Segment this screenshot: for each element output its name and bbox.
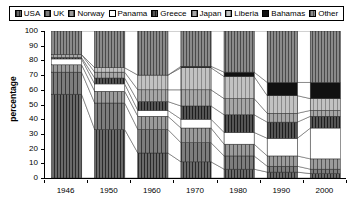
plot-area <box>44 31 346 179</box>
segment-liberia-1990 <box>267 96 297 114</box>
segment-panama-1950 <box>95 84 125 91</box>
x-tick-mark-3 <box>173 180 174 183</box>
segment-usa-1946 <box>52 94 82 178</box>
segment-norway-1946 <box>52 65 82 72</box>
segment-panama-1946 <box>52 59 82 65</box>
segment-uk-1946 <box>52 72 82 94</box>
legend-swatch-bahamas <box>262 10 269 17</box>
legend-item-panama: Panama <box>107 7 150 20</box>
x-tick-label-1990: 1990 <box>261 186 301 195</box>
segment-liberia-2000 <box>310 99 340 111</box>
segment-uk-2000 <box>310 169 340 173</box>
x-tick-label-1970: 1970 <box>175 186 215 195</box>
segment-norway-1960 <box>138 116 168 129</box>
segment-liberia-1980 <box>224 77 254 99</box>
segment-norway-2000 <box>310 159 340 169</box>
legend-item-bahamas: Bahamas <box>260 7 307 20</box>
legend-label-japan: Japan <box>200 10 222 18</box>
segment-other-1960 <box>138 31 168 75</box>
segment-greece-1990 <box>267 122 297 138</box>
x-tick-mark-5 <box>260 180 261 183</box>
segment-greece-1950 <box>95 78 125 84</box>
y-tick-label-90: 90 <box>12 42 38 50</box>
segment-uk-1990 <box>267 166 297 172</box>
connector-other-1950-1960 <box>125 31 138 75</box>
segment-panama-1980 <box>224 132 254 144</box>
legend-swatch-greece <box>151 10 158 17</box>
y-tick-label-100: 100 <box>12 27 38 35</box>
legend-swatch-other <box>309 10 316 17</box>
segment-panama-1990 <box>267 138 297 156</box>
legend-item-usa: USA <box>13 7 42 20</box>
segment-panama-2000 <box>310 128 340 159</box>
segment-other-1980 <box>224 31 254 72</box>
segment-japan-1950 <box>95 72 125 78</box>
segment-japan-1970 <box>181 90 211 106</box>
y-tick-label-20: 20 <box>12 145 38 153</box>
segment-liberia-1960 <box>138 75 168 90</box>
legend-item-norway: Norway <box>66 7 106 20</box>
x-tick-mark-6 <box>303 180 304 183</box>
segment-bahamas-1990 <box>267 82 297 95</box>
segment-liberia-1970 <box>181 68 211 90</box>
segment-norway-1950 <box>95 91 125 103</box>
segment-norway-1990 <box>267 156 297 166</box>
segment-japan-1980 <box>224 99 254 115</box>
legend-swatch-liberia <box>225 10 232 17</box>
segment-bahamas-1980 <box>224 72 254 76</box>
x-tick-label-1980: 1980 <box>218 186 258 195</box>
legend-label-other: Other <box>318 10 338 18</box>
x-tick-label-1960: 1960 <box>132 186 172 195</box>
stacked-area-chart: USA UK Norway Panama Greece Japan Liberi… <box>0 0 354 207</box>
y-tick-label-60: 60 <box>12 86 38 94</box>
legend-item-greece: Greece <box>149 7 188 20</box>
segment-other-1950 <box>95 31 125 68</box>
segment-other-1970 <box>181 31 211 66</box>
legend-item-japan: Japan <box>189 7 224 20</box>
x-tick-mark-4 <box>217 180 218 183</box>
y-axis: percentage 0102030405060708090100 <box>0 26 44 186</box>
segment-usa-1980 <box>224 169 254 178</box>
x-axis: 1946195019601970198019902000 <box>44 180 346 202</box>
segment-greece-1980 <box>224 115 254 133</box>
segment-bahamas-2000 <box>310 82 340 98</box>
x-tick-mark-7 <box>346 180 347 183</box>
legend-label-liberia: Liberia <box>234 10 258 18</box>
connector-other-1990-2000 <box>297 31 310 82</box>
segment-uk-1970 <box>181 143 211 162</box>
connector-bahamas-1990-2000 <box>297 82 310 98</box>
segment-other-2000 <box>310 31 340 82</box>
y-tick-label-40: 40 <box>12 115 38 123</box>
legend-item-other: Other <box>307 7 340 20</box>
legend-label-usa: USA <box>24 10 40 18</box>
segment-other-1946 <box>52 31 82 55</box>
segment-japan-2000 <box>310 110 340 116</box>
segment-panama-1970 <box>181 119 211 128</box>
x-tick-mark-2 <box>130 180 131 183</box>
legend-label-panama: Panama <box>118 10 148 18</box>
legend-item-liberia: Liberia <box>223 7 260 20</box>
chart-legend: USA UK Norway Panama Greece Japan Liberi… <box>9 6 344 21</box>
legend-swatch-panama <box>109 10 116 17</box>
y-tick-label-50: 50 <box>12 101 38 109</box>
segment-usa-1970 <box>181 162 211 178</box>
segment-greece-1970 <box>181 106 211 119</box>
segment-norway-1970 <box>181 128 211 143</box>
connector-other-1970-1980 <box>211 31 224 72</box>
legend-label-uk: UK <box>53 10 64 18</box>
stacked-bands <box>45 31 347 178</box>
segment-uk-1980 <box>224 156 254 169</box>
y-tick-label-30: 30 <box>12 130 38 138</box>
legend-label-bahamas: Bahamas <box>271 10 305 18</box>
segment-usa-1960 <box>138 153 168 178</box>
y-tick-label-80: 80 <box>12 56 38 64</box>
legend-swatch-uk <box>44 10 51 17</box>
legend-swatch-japan <box>191 10 198 17</box>
segment-usa-1950 <box>95 129 125 178</box>
legend-item-uk: UK <box>42 7 66 20</box>
segment-usa-2000 <box>310 174 340 178</box>
y-tick-label-70: 70 <box>12 71 38 79</box>
segment-usa-1990 <box>267 172 297 178</box>
x-tick-mark-1 <box>87 180 88 183</box>
segment-greece-2000 <box>310 116 340 128</box>
